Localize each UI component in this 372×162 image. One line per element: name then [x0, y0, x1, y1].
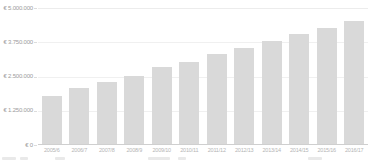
y-axis-tick-label: € 0 [25, 142, 33, 149]
ghost-text-artifact [55, 157, 65, 160]
bar-2010/11 [179, 62, 199, 144]
bar-2014/15 [289, 34, 309, 144]
bar-slot [176, 8, 204, 144]
plot-area [38, 8, 368, 145]
x-axis-tick-label: 2009/10 [148, 147, 176, 154]
bar-2009/10 [152, 67, 172, 144]
bar-slot [286, 8, 314, 144]
y-axis-tick-label: € 5.000.000 [4, 5, 34, 12]
ghost-text-artifact [308, 157, 322, 160]
y-axis-tick-mark [34, 77, 37, 78]
x-axis-tick-label: 2006/7 [66, 147, 94, 154]
bar-slot [341, 8, 369, 144]
bar-2006/7 [69, 88, 89, 144]
bar-2016/17 [344, 21, 364, 144]
x-axis-tick-label: 2015/16 [313, 147, 341, 154]
x-axis-tick-label: 2007/8 [93, 147, 121, 154]
bar-slot [148, 8, 176, 144]
ghost-text-artifact [178, 157, 186, 160]
bar-2011/12 [207, 54, 227, 144]
y-axis-tick-label: € 2.500.000 [4, 73, 34, 80]
x-axis-tick-label: 2010/11 [176, 147, 204, 154]
y-axis-tick-mark [34, 42, 37, 43]
bar-2005/6 [42, 96, 62, 144]
x-axis-tick-label: 2008/9 [121, 147, 149, 154]
x-axis: 2005/62006/72007/82008/92009/102010/1120… [38, 147, 368, 154]
ghost-text-artifact [20, 157, 28, 160]
bar-slot [38, 8, 66, 144]
bar-slot [258, 8, 286, 144]
x-axis-tick-label: 2014/15 [286, 147, 314, 154]
bar-slot [231, 8, 259, 144]
y-axis-tick-mark [34, 145, 37, 146]
bar-slot [66, 8, 94, 144]
x-axis-tick-label: 2013/14 [258, 147, 286, 154]
bar-slot [313, 8, 341, 144]
ghost-text-artifact [148, 157, 170, 160]
bar-2008/9 [124, 76, 144, 145]
x-axis-tick-label: 2012/13 [231, 147, 259, 154]
bar-slot [93, 8, 121, 144]
x-axis-tick-label: 2016/17 [341, 147, 369, 154]
y-axis-tick-mark [34, 8, 37, 9]
bar-slot [121, 8, 149, 144]
ghost-text-artifact [2, 157, 16, 160]
x-axis-tick-label: 2011/12 [203, 147, 231, 154]
y-axis-tick-label: € 1.250.000 [4, 107, 34, 114]
y-axis-tick-label: € 3.750.000 [4, 39, 34, 46]
bar-2015/16 [317, 28, 337, 144]
y-axis-tick-mark [34, 111, 37, 112]
bar-chart: € 5.000.000€ 3.750.000€ 2.500.000€ 1.250… [0, 0, 372, 162]
bar-slot [203, 8, 231, 144]
x-axis-tick-label: 2005/6 [38, 147, 66, 154]
bar-2013/14 [262, 41, 282, 144]
bar-2012/13 [234, 48, 254, 144]
bar-2007/8 [97, 82, 117, 144]
